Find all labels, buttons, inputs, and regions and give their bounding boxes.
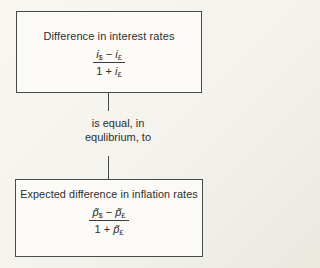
connector-label-line2: equlibrium, to — [18, 130, 216, 144]
dollar-subscript: $ — [99, 211, 103, 220]
inflation-formula-numerator: p̃$−p̃£ — [89, 206, 128, 221]
connector-line-bottom — [108, 156, 109, 179]
minus-operator: − — [106, 48, 112, 60]
pound-subscript: £ — [117, 70, 121, 79]
interest-rate-difference-box: Difference in interest rates i$−i£ 1 + i… — [16, 11, 202, 93]
pound-subscript: £ — [119, 228, 123, 237]
pound-subscript: £ — [121, 211, 125, 220]
interest-box-title: Difference in interest rates — [17, 30, 201, 43]
one-plus-text: 1 + — [95, 223, 111, 235]
interest-rate-formula: i$−i£ 1 + i£ — [93, 48, 125, 77]
inflation-formula-denominator: 1 + p̃£ — [89, 221, 128, 235]
dollar-subscript: $ — [99, 53, 103, 62]
minus-operator: − — [106, 206, 112, 218]
connector-label: is equal, in equlibrium, to — [18, 116, 216, 144]
pound-subscript: £ — [118, 53, 122, 62]
connector-label-line1: is equal, in — [18, 116, 216, 130]
inflation-rate-difference-box: Expected difference in inflation rates p… — [15, 179, 203, 257]
connector-line-top — [108, 93, 109, 111]
inflation-rate-formula: p̃$−p̃£ 1 + p̃£ — [89, 206, 128, 235]
interest-formula-denominator: 1 + i£ — [93, 63, 125, 77]
interest-formula-numerator: i$−i£ — [93, 48, 125, 63]
one-plus-text: 1 + — [96, 65, 112, 77]
inflation-box-title: Expected difference in inflation rates — [16, 188, 202, 201]
